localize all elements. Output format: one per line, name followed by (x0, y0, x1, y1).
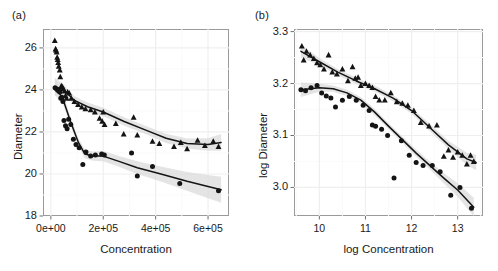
y-axis-title-b: log Diameter (257, 113, 269, 178)
y-tick-label: 18 (1, 209, 37, 221)
y-axis-title-a: Diameter (12, 113, 24, 160)
panel-b: (b) 3.03.13.23.3 10111213 log Concentrat… (249, 0, 498, 271)
y-tick-label: 26 (1, 41, 37, 53)
x-axis-title-a: Concentration (43, 243, 229, 255)
y-tick-label: 3.3 (252, 25, 288, 37)
y-tick-label: 3.0 (252, 180, 288, 192)
x-tick-label: 2e+05 (73, 222, 133, 234)
x-tick-label: 0e+00 (21, 222, 81, 234)
x-tick-label: 4e+05 (126, 222, 186, 234)
x-tick-label: 13 (428, 222, 488, 234)
x-axis-title-b: log Concentration (294, 243, 483, 255)
figure-container: (a) 1820222426 0e+002e+054e+056e+05 Conc… (0, 0, 498, 271)
y-tick-label: 20 (1, 167, 37, 179)
x-tick-label: 6e+05 (178, 222, 238, 234)
panel-a: (a) 1820222426 0e+002e+054e+056e+05 Conc… (0, 0, 249, 271)
y-tick-label: 24 (1, 83, 37, 95)
y-tick-label: 3.2 (252, 77, 288, 89)
